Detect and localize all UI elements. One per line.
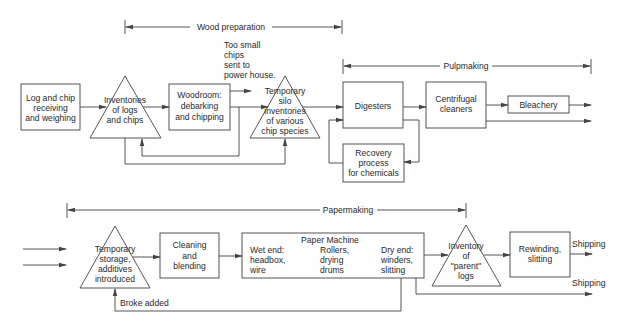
svg-text:sent to: sent to [224,60,250,70]
node-bleachery: Bleachery [508,96,569,113]
svg-text:drying: drying [320,255,344,265]
svg-text:cleaners: cleaners [440,104,472,114]
svg-text:power house.: power house. [224,70,276,80]
svg-text:Rollers,: Rollers, [320,245,349,255]
phase-wood-preparation: Wood preparation [125,20,342,34]
node-rewinding-slitting: Rewinding, slitting [510,232,570,277]
node-centrifugal-cleaners: Centrifugal cleaners [426,82,486,128]
svg-text:silo: silo [279,96,292,106]
svg-text:blending: blending [173,261,206,271]
svg-text:headbox,: headbox, [250,255,285,265]
phase-papermaking: Papermaking [67,203,466,218]
svg-text:Dry end:: Dry end: [381,245,413,255]
svg-text:introduced: introduced [95,274,135,284]
svg-text:slitting: slitting [528,254,553,264]
phase-pulpmaking: Pulpmaking [343,59,591,74]
phase-label-papermaking: Papermaking [323,205,374,215]
svg-text:Bleachery: Bleachery [519,100,558,110]
svg-text:Centrifugal: Centrifugal [435,94,477,104]
node-log-receiving: Log and chip receiving and weighing [21,84,80,130]
svg-text:and chipping: and chipping [175,112,224,122]
svg-text:chips: chips [224,50,244,60]
svg-text:winders,: winders, [380,255,413,265]
svg-text:chip species: chip species [261,126,308,136]
svg-text:Temporary: Temporary [95,244,136,254]
node-paper-machine: Paper Machine Wet end: headbox, wire Rol… [242,233,424,278]
svg-text:logs: logs [458,271,474,281]
node-cleaning-blending: Cleaning and blending [160,233,219,278]
phase-label-pulpmaking: Pulpmaking [444,61,489,71]
node-woodroom: Woodroom: debarking and chipping [169,84,230,130]
svg-text:Recovery: Recovery [355,148,392,158]
svg-text:storage,: storage, [99,254,130,264]
svg-text:receiving: receiving [33,103,68,113]
node-inventory-parent-logs: Inventory of "parent" logs [432,225,501,286]
svg-text:of: of [462,251,470,261]
svg-text:Temporary: Temporary [265,86,306,96]
label-shipping-1: Shipping [572,239,606,249]
svg-text:Log and chip: Log and chip [26,93,75,103]
phase-label-wood-preparation: Wood preparation [197,22,265,32]
label-shipping-2: Shipping [572,278,606,288]
svg-text:and chips: and chips [107,115,144,125]
svg-text:drums: drums [320,265,344,275]
svg-text:of logs: of logs [112,105,137,115]
svg-text:debarking: debarking [181,101,219,111]
svg-text:Inventories: Inventories [104,95,146,105]
svg-text:Paper Machine: Paper Machine [301,235,359,245]
svg-text:for chemicals: for chemicals [348,168,399,178]
svg-text:wire: wire [249,265,266,275]
svg-text:Rewinding,: Rewinding, [519,244,562,254]
svg-text:slitting: slitting [381,265,406,275]
svg-text:Woodroom:: Woodroom: [177,90,221,100]
svg-text:additives: additives [98,264,132,274]
note-small-chips: Too small chips sent to power house. [224,40,276,80]
label-broke-added: Broke added [120,298,169,308]
node-recovery-process: Recovery process for chemicals [343,144,404,182]
svg-text:and weighing: and weighing [25,113,76,123]
node-digesters: Digesters [343,82,403,128]
svg-text:process: process [358,158,388,168]
svg-text:Wet end:: Wet end: [250,245,284,255]
svg-text:inventories: inventories [264,106,306,116]
svg-text:Inventory: Inventory [448,241,484,251]
svg-text:Digesters: Digesters [355,101,391,111]
svg-text:Too small: Too small [224,40,260,50]
svg-text:"parent": "parent" [451,261,481,271]
process-flow-diagram: Wood preparation Pulpmaking Papermaking … [0,0,629,331]
svg-text:and: and [182,251,197,261]
svg-text:Cleaning: Cleaning [173,240,207,250]
svg-text:of various: of various [266,116,303,126]
